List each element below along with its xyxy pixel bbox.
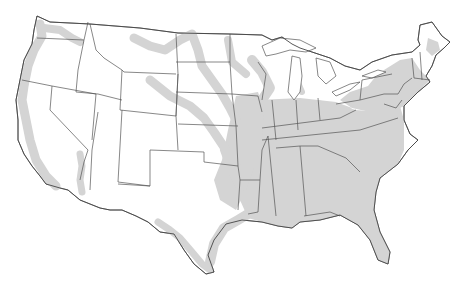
us-map [0, 0, 463, 285]
